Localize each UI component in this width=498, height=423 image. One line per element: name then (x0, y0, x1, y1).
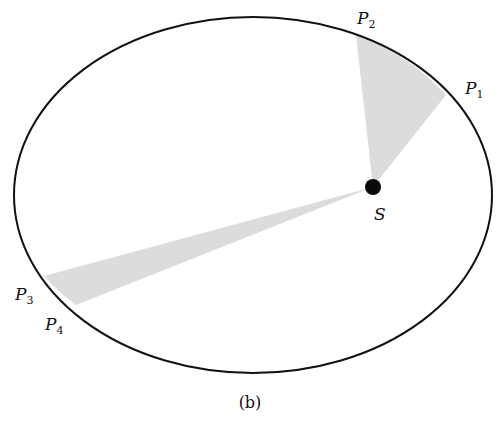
label-p4: P4 (44, 314, 63, 337)
swept-sector-p3-p4 (44, 187, 373, 305)
swept-sector-p1-p2 (356, 35, 446, 187)
label-p1: P1 (464, 78, 483, 101)
figure-caption: (b) (239, 393, 262, 412)
kepler-orbit-diagram: P2 P1 S P3 P4 (b) (0, 0, 498, 423)
label-p2: P2 (356, 8, 375, 31)
sun-focus-dot (365, 179, 381, 195)
orbit-ellipse (14, 17, 492, 373)
label-s: S (374, 204, 386, 224)
label-p3: P3 (14, 284, 33, 307)
